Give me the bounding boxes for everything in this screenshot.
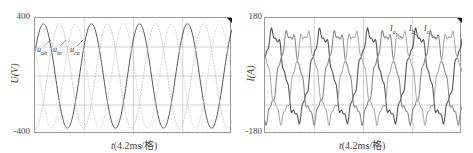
current-plot-area (264, 17, 461, 133)
y-axis-label: U(V) (9, 64, 20, 84)
label-i-b: Ib (409, 24, 415, 35)
x-axis-label: t(4.2ms/格) (339, 137, 385, 152)
y-tick-min: -400 (0, 126, 30, 136)
label-i-c: Ic (424, 24, 429, 35)
label-u-ca: uca (70, 45, 80, 56)
label-u-ab: uab (37, 45, 47, 56)
trigger-marker-icon (457, 18, 462, 23)
label-i-a: Ia (390, 24, 396, 35)
x-axis-label: t(4.2ms/格) (111, 137, 157, 152)
y-tick-min: -180 (232, 126, 262, 136)
y-tick-max: 180 (232, 11, 262, 21)
y-axis-label: I(A) (245, 65, 256, 81)
voltage-plot-area (34, 17, 231, 133)
voltage-waveforms (35, 18, 232, 134)
label-u-bc: ubc (53, 45, 63, 56)
y-tick-max: 400 (0, 11, 30, 21)
current-chart-panel: 180 -180 I(A) Ia Ib Ic t(4.2ms/格) (236, 0, 473, 153)
current-waveforms (265, 18, 462, 134)
voltage-chart-panel: 400 -400 U(V) uab ubc uca t(4.2ms/格) (0, 0, 236, 153)
